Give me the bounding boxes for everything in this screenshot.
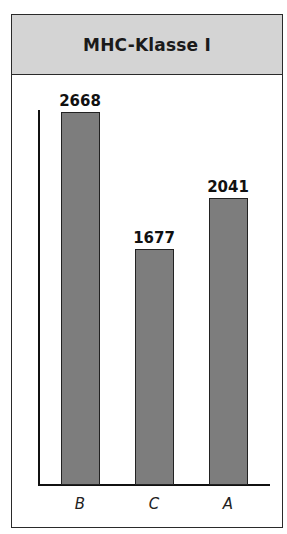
value-label-a: 2041 — [198, 178, 258, 196]
value-label-b: 2668 — [50, 92, 110, 110]
category-label-c: C — [134, 495, 174, 513]
value-label-c: 1677 — [124, 229, 184, 247]
bar-b — [61, 112, 100, 485]
bar-c — [135, 249, 174, 485]
bar-a — [209, 198, 248, 485]
y-axis — [38, 110, 40, 486]
plot-area: 2668 B 1677 C 2041 A — [0, 0, 287, 534]
category-label-a: A — [208, 495, 248, 513]
category-label-b: B — [60, 495, 100, 513]
